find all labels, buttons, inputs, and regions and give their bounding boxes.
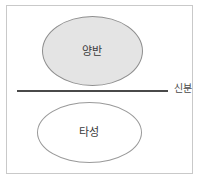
upper-ellipse-shape: 양반 bbox=[42, 16, 143, 86]
lower-ellipse-shape: 타성 bbox=[37, 102, 142, 163]
diagram-frame: 양반 신분 타성 bbox=[6, 5, 193, 174]
status-divider-line bbox=[17, 90, 168, 92]
diagram-canvas: 양반 신분 타성 bbox=[0, 0, 200, 181]
lower-ellipse-label: 타성 bbox=[79, 127, 100, 138]
upper-ellipse-label: 양반 bbox=[82, 46, 103, 57]
status-divider-label: 신분 bbox=[174, 84, 192, 94]
